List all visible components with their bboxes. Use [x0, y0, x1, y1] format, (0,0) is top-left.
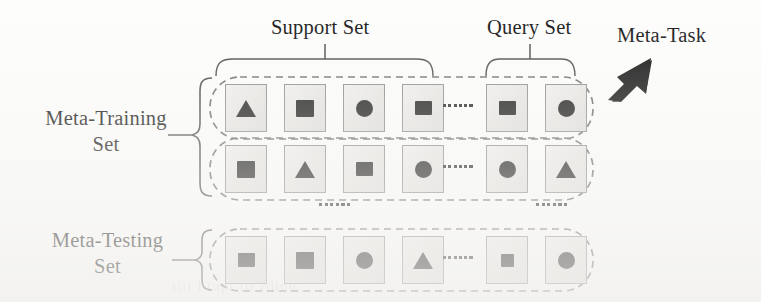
sample-cell-support-1: [225, 84, 267, 132]
query-set-bracket: [486, 44, 575, 76]
ellipsis-dot: [459, 104, 462, 107]
ellipsis-dot: [469, 104, 472, 107]
circle-icon: [499, 161, 516, 178]
sample-cell-query-1: [486, 84, 528, 132]
sample-cell-support-3: [343, 84, 385, 132]
row-ellipsis: [443, 165, 473, 168]
square-icon: [238, 253, 255, 267]
triangle-icon: [413, 252, 433, 269]
ellipsis-dot: [454, 256, 457, 259]
sample-cell-support-2: [284, 84, 326, 132]
ellipsis-dot: [542, 203, 545, 206]
ellipsis-dot: [325, 203, 328, 206]
square-icon: [499, 101, 516, 115]
ellipsis-dot: [448, 165, 451, 168]
support-set-bracket: [216, 44, 433, 76]
ellipsis-dot: [443, 165, 446, 168]
sample-cell-support-1: [225, 145, 267, 193]
square-icon: [415, 101, 432, 115]
ellipsis-dot: [454, 104, 457, 107]
square-icon: [296, 100, 314, 117]
circle-icon: [415, 161, 432, 178]
ellipsis-dot: [454, 165, 457, 168]
ellipsis-dot: [464, 104, 467, 107]
ellipsis-dot: [553, 203, 556, 206]
square-icon: [296, 252, 314, 269]
sample-cell-support-4: [402, 84, 444, 132]
meta-training-brace: [168, 78, 212, 196]
sample-cell-query-2: [545, 236, 587, 284]
ellipsis-dot: [459, 165, 462, 168]
circle-icon: [558, 100, 575, 117]
meta-testing-brace: [172, 230, 212, 290]
gap-ellipsis-right: [536, 203, 567, 206]
ellipsis-dot: [564, 203, 567, 206]
sample-cell-support-2: [284, 236, 326, 284]
ellipsis-dot: [558, 203, 561, 206]
sample-cell-query-1: [486, 145, 528, 193]
circle-icon: [558, 252, 575, 269]
ellipsis-dot: [448, 104, 451, 107]
ellipsis-dot: [469, 256, 472, 259]
sample-cell-support-3: [343, 236, 385, 284]
triangle-icon: [295, 161, 315, 178]
row-ellipsis: [443, 104, 473, 107]
sample-cell-support-4: [402, 145, 444, 193]
ellipsis-dot: [330, 203, 333, 206]
sample-cell-support-3: [343, 145, 385, 193]
meta-task-arrow-icon: [604, 48, 666, 110]
triangle-icon: [236, 100, 256, 117]
sample-cell-support-2: [284, 145, 326, 193]
ellipsis-dot: [459, 256, 462, 259]
circle-icon: [356, 252, 373, 269]
ellipsis-dot: [448, 256, 451, 259]
ellipsis-dot: [319, 203, 322, 206]
ellipsis-dot: [336, 203, 339, 206]
gap-ellipsis-left: [319, 203, 350, 206]
ellipsis-dot: [443, 104, 446, 107]
ellipsis-dot: [443, 256, 446, 259]
sample-cell-query-2: [545, 145, 587, 193]
triangle-icon: [556, 161, 576, 178]
sample-cell-query-2: [545, 84, 587, 132]
ellipsis-dot: [341, 203, 344, 206]
ellipsis-dot: [536, 203, 539, 206]
ellipsis-dot: [547, 203, 550, 206]
ellipsis-dot: [347, 203, 350, 206]
square-icon: [501, 254, 514, 267]
circle-icon: [356, 100, 373, 117]
sample-cell-support-1: [225, 236, 267, 284]
row-ellipsis: [443, 256, 473, 259]
sample-cell-query-1: [486, 236, 528, 284]
ellipsis-dot: [464, 256, 467, 259]
sample-cell-support-4: [402, 236, 444, 284]
ellipsis-dot: [464, 165, 467, 168]
square-icon: [237, 161, 255, 178]
square-icon: [356, 162, 373, 176]
ellipsis-dot: [469, 165, 472, 168]
